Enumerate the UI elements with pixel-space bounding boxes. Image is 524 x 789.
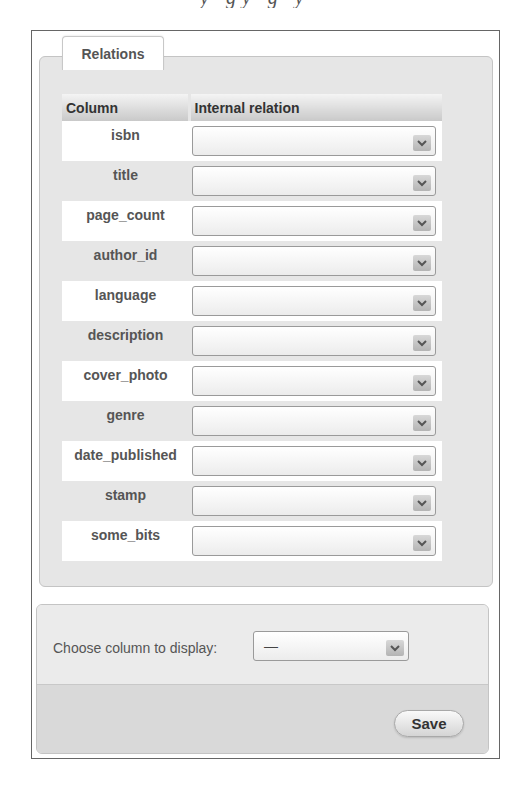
internal-relation-select[interactable] [192,206,436,236]
chevron-down-icon[interactable] [386,640,404,656]
table-row: stamp [62,481,442,521]
relation-cell [189,281,442,321]
chevron-down-icon[interactable] [413,295,431,311]
chevron-down-icon[interactable] [413,415,431,431]
internal-relation-select[interactable] [192,486,436,516]
relation-cell [189,521,442,561]
column-name: author_id [62,241,189,281]
save-button[interactable]: Save [394,710,464,737]
relation-cell [189,321,442,361]
chevron-down-icon[interactable] [413,215,431,231]
table-row: title [62,161,442,201]
column-name: title [62,161,189,201]
relation-cell [189,121,442,161]
table-row: author_id [62,241,442,281]
column-name: page_count [62,201,189,241]
relation-cell [189,361,442,401]
tab-relations-label: Relations [81,46,144,62]
display-column-select[interactable]: — [253,631,409,661]
chevron-down-icon[interactable] [413,535,431,551]
chevron-down-icon[interactable] [413,375,431,391]
chevron-down-icon[interactable] [413,495,431,511]
header-internal-relation: Internal relation [189,94,442,121]
clipped-caption-fragment: y gy g y [200,0,400,8]
relation-cell [189,161,442,201]
chevron-down-icon[interactable] [413,175,431,191]
column-name: description [62,321,189,361]
internal-relation-select[interactable] [192,126,436,156]
relation-cell [189,201,442,241]
relations-fieldset: Column Internal relation isbntitlepage_c… [39,56,493,587]
chevron-down-icon[interactable] [413,135,431,151]
display-panel: Choose column to display: — Save [36,604,489,754]
internal-relation-select[interactable] [192,446,436,476]
chevron-down-icon[interactable] [413,335,431,351]
column-name: some_bits [62,521,189,561]
chevron-down-icon[interactable] [413,255,431,271]
column-name: stamp [62,481,189,521]
column-name: cover_photo [62,361,189,401]
table-row: date_published [62,441,442,481]
column-name: genre [62,401,189,441]
column-name: date_published [62,441,189,481]
tab-relations[interactable]: Relations [62,36,164,70]
internal-relation-select[interactable] [192,166,436,196]
relations-dialog: Relations Column Internal relation isbnt… [31,30,500,759]
table-row: some_bits [62,521,442,561]
relation-cell [189,241,442,281]
table-row: genre [62,401,442,441]
internal-relation-select[interactable] [192,366,436,396]
table-row: description [62,321,442,361]
relation-cell [189,481,442,521]
table-row: language [62,281,442,321]
internal-relation-select[interactable] [192,526,436,556]
chevron-down-icon[interactable] [413,455,431,471]
table-row: page_count [62,201,442,241]
internal-relation-select[interactable] [192,326,436,356]
table-row: isbn [62,121,442,161]
internal-relation-select[interactable] [192,406,436,436]
table-header-row: Column Internal relation [62,94,442,121]
relation-cell [189,401,442,441]
display-options: Choose column to display: — [37,605,488,685]
relation-cell [189,441,442,481]
table-row: cover_photo [62,361,442,401]
internal-relation-select[interactable] [192,246,436,276]
column-name: language [62,281,189,321]
choose-column-label: Choose column to display: [53,640,217,656]
column-name: isbn [62,121,189,161]
relations-table: Column Internal relation isbntitlepage_c… [62,94,442,561]
display-column-value: — [264,638,278,654]
header-column: Column [62,94,189,121]
dialog-footer: Save [37,685,488,754]
internal-relation-select[interactable] [192,286,436,316]
